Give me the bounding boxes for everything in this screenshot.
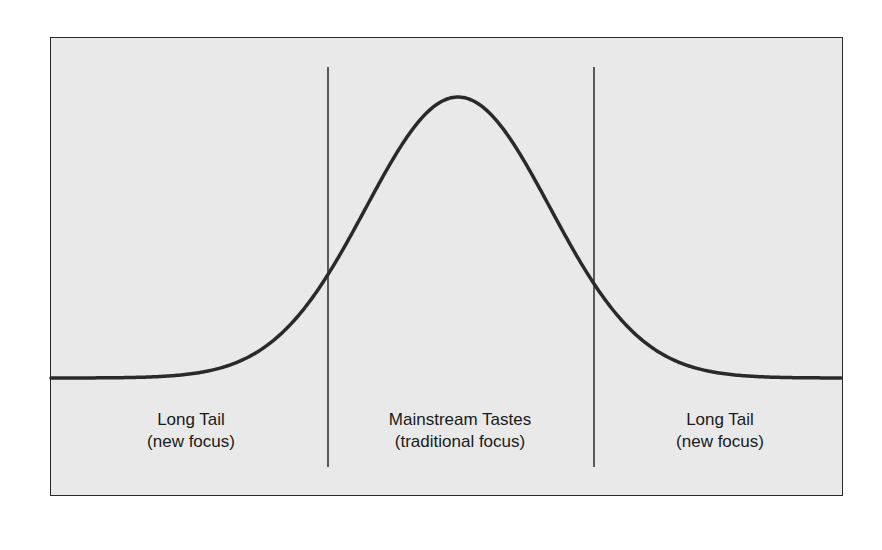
- diagram-canvas: Long Tail (new focus) Mainstream Tastes …: [0, 0, 882, 550]
- bell-curve: [51, 97, 841, 378]
- right-tail-title: Long Tail: [676, 409, 764, 431]
- region-label-mainstream: Mainstream Tastes (traditional focus): [389, 409, 531, 453]
- mainstream-subtitle: (traditional focus): [389, 431, 531, 453]
- left-tail-subtitle: (new focus): [147, 431, 235, 453]
- left-tail-title: Long Tail: [147, 409, 235, 431]
- region-label-right-tail: Long Tail (new focus): [676, 409, 764, 453]
- region-label-left-tail: Long Tail (new focus): [147, 409, 235, 453]
- mainstream-title: Mainstream Tastes: [389, 409, 531, 431]
- bell-curve-plot: [0, 0, 882, 550]
- right-tail-subtitle: (new focus): [676, 431, 764, 453]
